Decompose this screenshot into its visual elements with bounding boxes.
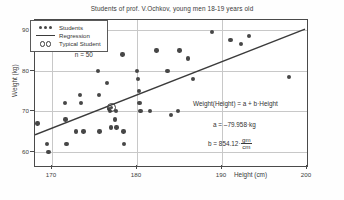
legend-label-typical-student: Typical Student — [59, 40, 101, 47]
legend-item-typical-student: Typical Student — [34, 40, 104, 48]
data-point — [154, 48, 158, 52]
chart-legend: Students Regression Typical Student — [30, 20, 108, 52]
slope-unit-fraction: gmcm — [241, 137, 252, 151]
data-point — [96, 69, 100, 73]
y-tick-mark — [30, 70, 34, 71]
data-point — [137, 89, 141, 93]
data-point — [137, 101, 141, 105]
x-tick-mark — [221, 165, 222, 169]
regression-line-icon — [34, 35, 57, 36]
x-tick-label: 170 — [46, 171, 56, 178]
formula-slope: b = 854.12·gmcm — [208, 137, 252, 151]
y-tick-mark — [30, 151, 34, 152]
y-tick-mark — [30, 110, 34, 111]
data-point — [97, 129, 101, 133]
x-tick-mark — [51, 165, 52, 169]
typical-student-icon — [34, 41, 57, 47]
legend-item-regression: Regression — [34, 31, 104, 39]
data-point — [81, 129, 85, 133]
data-point — [135, 69, 139, 73]
data-point — [109, 125, 113, 129]
data-point — [74, 129, 78, 133]
x-tick-mark — [136, 165, 137, 169]
data-point — [63, 117, 67, 121]
y-axis-title: Weight (kg) — [11, 64, 18, 97]
data-point — [46, 150, 50, 154]
formula-model: Weight(Height) = a + b·Height — [193, 100, 278, 107]
y-tick-label: 60 — [10, 147, 29, 154]
y-tick-label: 90 — [10, 26, 29, 33]
formula-slope-value: b = 854.12· — [208, 140, 241, 147]
data-point — [138, 109, 142, 113]
sample-size-annotation: n = 50 — [75, 51, 93, 58]
x-axis-title: Height (cm) — [234, 171, 267, 178]
chart-title: Students of prof. V.Ochkov, young men 18… — [0, 5, 344, 12]
legend-label-regression: Regression — [59, 32, 90, 39]
data-point — [114, 125, 118, 129]
data-point — [64, 142, 68, 146]
data-point — [177, 48, 181, 52]
legend-item-students: Students — [34, 23, 104, 31]
chart-figure: Students of prof. V.Ochkov, young men 18… — [0, 0, 344, 200]
typical-student-marker — [107, 103, 116, 112]
legend-label-students: Students — [59, 24, 83, 31]
data-point — [121, 129, 125, 133]
data-point — [165, 69, 169, 73]
data-point — [120, 52, 124, 56]
x-tick-mark — [306, 165, 307, 169]
data-point — [186, 56, 190, 60]
x-tick-label: 180 — [131, 171, 141, 178]
data-point — [35, 121, 39, 125]
x-tick-label: 200 — [301, 171, 311, 178]
data-point — [45, 142, 49, 146]
students-marker-icon — [34, 26, 57, 29]
data-point — [113, 117, 117, 121]
formula-intercept: a = –79.958·kg — [213, 121, 256, 128]
y-tick-label: 70 — [10, 107, 29, 114]
data-point — [136, 77, 140, 81]
slope-unit-denominator: cm — [241, 144, 251, 150]
x-tick-label: 190 — [216, 171, 226, 178]
data-point — [97, 93, 101, 97]
